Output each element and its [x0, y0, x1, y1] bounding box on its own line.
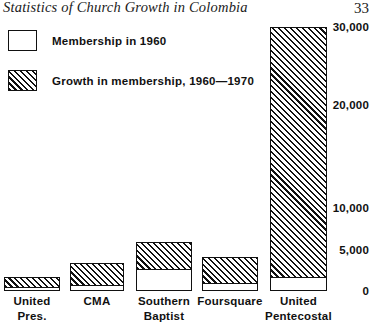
- plot-area: [0, 0, 335, 292]
- bar-foursquare: [202, 257, 258, 291]
- chart-page: Statistics of Church Growth in Colombia …: [0, 0, 377, 326]
- x-axis-label-line2: Pentecostal: [256, 309, 341, 324]
- x-axis-label-united-pentecostal: United Pentecostal: [256, 294, 341, 324]
- y-axis-label-5000: 5,000: [339, 244, 369, 256]
- page-number: 33: [354, 0, 369, 17]
- bar-segment-growth: [271, 28, 326, 278]
- bar-southern-baptist: [136, 242, 192, 291]
- bar-united-pentecostal: [270, 27, 327, 291]
- bar-segment-growth: [137, 243, 191, 270]
- y-axis-label-0: 0: [362, 285, 369, 297]
- x-axis-label-line1: United: [256, 294, 341, 309]
- bar-segment-growth: [71, 264, 123, 286]
- bar-segment-growth: [203, 258, 257, 284]
- bar-united-pres: [4, 277, 60, 291]
- bar-segment-growth: [5, 278, 59, 288]
- bar-cma: [70, 263, 124, 291]
- y-axis-label-10000: 10,000: [333, 202, 369, 214]
- x-axis-label-line2: Baptist: [122, 309, 206, 324]
- x-axis-label-line2: Pres.: [0, 309, 74, 324]
- y-axis-label-30000: 30,000: [333, 21, 369, 33]
- y-axis-label-20000: 20,000: [333, 99, 369, 111]
